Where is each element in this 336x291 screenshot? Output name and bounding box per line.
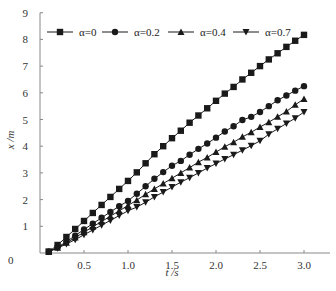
triangle-down-marker-icon [142,199,149,206]
triangle-down-marker-icon [274,126,281,133]
triangle-up-marker-icon [204,154,211,161]
circle-marker-icon [222,128,228,134]
square-marker-icon [239,76,245,82]
square-marker-icon [142,160,148,166]
triangle-down-marker-icon [133,204,140,211]
circle-marker-icon [160,169,166,175]
y-tick-label: 1 [23,220,29,232]
y-tick-label: 6 [23,87,29,99]
y-tick-label: 4 [23,140,29,152]
y-tick-label: 5 [23,114,29,126]
data-series [45,32,307,256]
legend-label: α=0 [79,26,97,38]
circle-marker-icon [195,146,201,152]
triangle-up-marker-icon [142,191,149,198]
x-tick-label: 3.0 [297,259,311,271]
triangle-up-marker-icon [151,185,158,192]
circle-marker-icon [204,140,210,146]
circle-marker-icon [266,103,272,109]
triangle-down-marker-icon [213,161,220,168]
series-circle [46,83,308,255]
y-tick-label: 7 [23,60,29,72]
triangle-up-marker-icon [177,169,184,176]
triangle-up-marker-icon [133,197,140,204]
triangle-up-marker-icon [195,159,202,166]
square-marker-icon [301,32,307,38]
series-square [46,32,308,255]
square-marker-icon [72,226,78,232]
triangle-down-marker-icon [283,121,290,128]
square-marker-icon [248,70,254,76]
triangle-down-marker-icon [107,217,114,224]
triangle-down-marker-icon [221,156,228,163]
triangle-down-marker-icon [301,109,308,116]
triangle-up-marker-icon [221,143,228,150]
circle-marker-icon [213,134,219,140]
triangle-down-marker-icon [292,115,299,122]
triangle-up-marker-icon [230,139,237,146]
triangle-up-marker-icon [292,101,299,108]
triangle-down-marker-icon [265,131,272,138]
square-marker-icon [222,90,228,96]
triangle-down-marker-icon [116,213,123,220]
triangle-down-marker-icon [125,208,132,215]
circle-marker-icon [178,158,184,164]
origin-label: 0 [8,254,14,266]
y-tick-label: 8 [23,33,29,45]
square-marker-icon [213,98,219,104]
y-axis-title: x /m [4,131,16,151]
circle-marker-icon [151,176,157,182]
circle-marker-icon [301,83,307,89]
square-marker-icon [151,151,157,157]
square-marker-icon [81,218,87,224]
triangle-up-marker-icon [283,108,290,115]
y-tick-label: 3 [23,167,29,179]
circle-marker-icon [292,87,298,93]
circle-legend-icon [112,29,118,35]
triangle-down-marker-icon [151,194,158,201]
square-marker-icon [230,84,236,90]
line-chart: 1234567890.51.01.52.02.53.0 α=0α=0.2α=0.… [0,0,336,291]
square-marker-icon [178,128,184,134]
square-marker-icon [186,120,192,126]
square-marker-icon [116,186,122,192]
triangle-up-marker-icon [301,95,308,102]
triangle-down-marker-icon [98,222,105,229]
y-tick-label: 9 [23,7,29,19]
circle-marker-icon [142,183,148,189]
circle-marker-icon [283,92,289,98]
triangle-down-marker-icon [160,189,167,196]
square-legend-icon [57,29,63,35]
square-marker-icon [266,56,272,62]
triangle-up-marker-icon [186,164,193,171]
square-marker-icon [292,38,298,44]
square-marker-icon [134,169,140,175]
triangle-up-marker-icon [248,129,255,136]
triangle-down-marker-icon [169,184,176,191]
circle-marker-icon [248,114,254,120]
square-marker-icon [98,202,104,208]
series-triangle-up [45,95,307,254]
x-tick-label: 2.0 [209,259,223,271]
circle-marker-icon [274,97,280,103]
square-marker-icon [195,112,201,118]
triangle-down-marker-icon [195,170,202,177]
triangle-down-marker-icon [89,227,96,234]
triangle-down-marker-icon [248,143,255,150]
legend-item: α=0 [47,26,97,38]
triangle-up-marker-icon [274,113,281,120]
triangle-up-marker-icon [257,123,264,130]
legend-label: α=0.4 [200,26,226,38]
square-marker-icon [274,50,280,56]
square-marker-icon [107,194,113,200]
square-marker-icon [90,210,96,216]
triangle-down-marker-icon [204,165,211,172]
square-marker-icon [125,178,131,184]
triangle-up-marker-icon [239,133,246,140]
triangle-up-marker-icon [169,175,176,182]
triangle-down-marker-icon [230,152,237,159]
legend-item: α=0.7 [233,26,291,38]
legend-label: α=0.2 [134,26,160,38]
legend-item: α=0.4 [168,26,226,38]
legend: α=0α=0.2α=0.4α=0.7 [47,26,291,38]
